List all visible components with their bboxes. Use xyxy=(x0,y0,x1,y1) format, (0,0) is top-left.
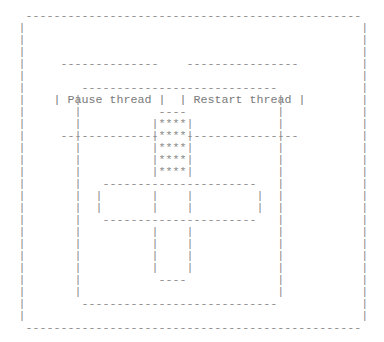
figure-cross-bar: ---------------------- | | | | | | | | -… xyxy=(96,178,264,226)
thread-demo-window: ----------------------------------------… xyxy=(0,0,384,342)
pause-button-top-border: -------------- xyxy=(54,58,166,70)
figure-top-block: ---- |****| |****| |****| |****| |****| xyxy=(152,106,194,178)
restart-button-top-border: ---------------- xyxy=(180,58,306,70)
figure-stem: | | | | | | | | ---- xyxy=(152,226,194,286)
